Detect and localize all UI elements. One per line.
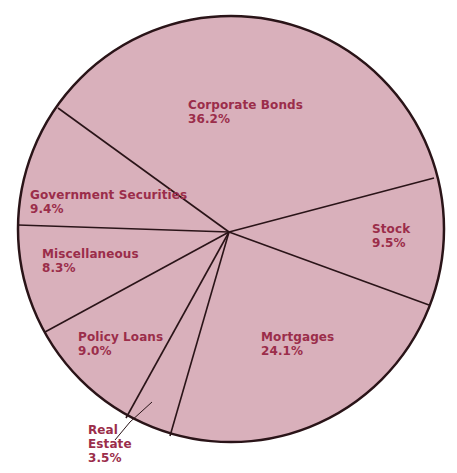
label-real-estate: Real Estate 3.5% xyxy=(88,423,132,465)
label-stock-pct: 9.5% xyxy=(372,236,410,250)
label-corporate-bonds-name: Corporate Bonds xyxy=(188,98,303,112)
label-real-estate-pct: 3.5% xyxy=(88,451,132,465)
label-miscellaneous-pct: 8.3% xyxy=(42,261,139,275)
label-mortgages: Mortgages 24.1% xyxy=(261,330,334,358)
label-real-estate-name-line2: Estate xyxy=(88,437,132,451)
label-policy-loans-name: Policy Loans xyxy=(78,330,163,344)
label-real-estate-name-line1: Real xyxy=(88,423,132,437)
label-corporate-bonds: Corporate Bonds 36.2% xyxy=(188,98,303,126)
label-policy-loans-pct: 9.0% xyxy=(78,344,163,358)
label-government-securities: Government Securities 9.4% xyxy=(30,188,187,216)
label-government-securities-pct: 9.4% xyxy=(30,202,187,216)
label-miscellaneous-name: Miscellaneous xyxy=(42,247,139,261)
label-policy-loans: Policy Loans 9.0% xyxy=(78,330,163,358)
label-mortgages-pct: 24.1% xyxy=(261,344,334,358)
label-stock-name: Stock xyxy=(372,222,410,236)
label-mortgages-name: Mortgages xyxy=(261,330,334,344)
label-government-securities-name: Government Securities xyxy=(30,188,187,202)
label-corporate-bonds-pct: 36.2% xyxy=(188,112,303,126)
label-miscellaneous: Miscellaneous 8.3% xyxy=(42,247,139,275)
label-stock: Stock 9.5% xyxy=(372,222,410,250)
